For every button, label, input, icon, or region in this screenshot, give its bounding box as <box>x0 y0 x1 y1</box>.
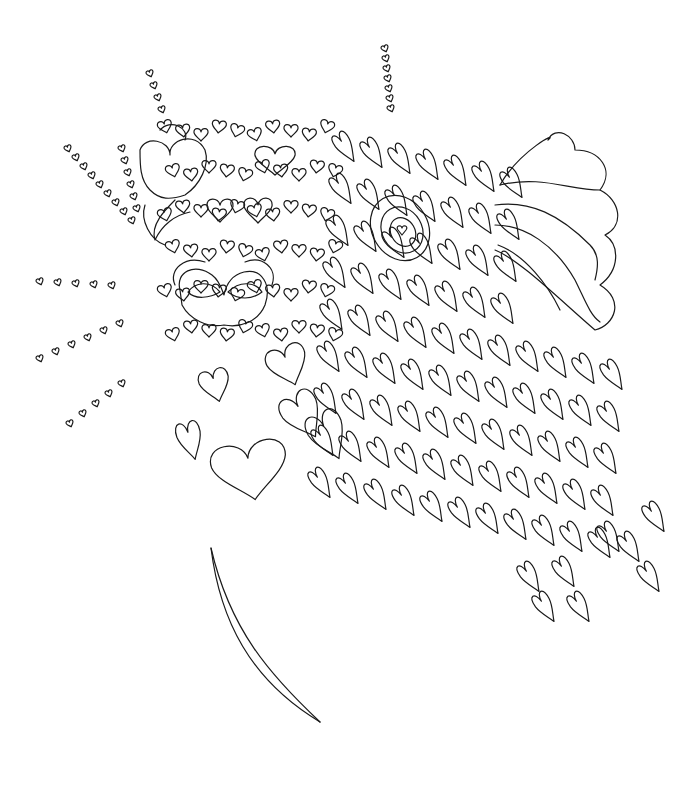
heart-shapes <box>157 119 671 626</box>
coloring-page-canvas <box>0 0 692 806</box>
left-tufts <box>140 125 206 245</box>
stem-curve <box>211 548 320 722</box>
ear-outline <box>495 133 618 330</box>
